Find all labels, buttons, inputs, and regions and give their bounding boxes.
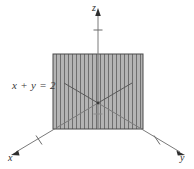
z-axis-label: z — [92, 2, 96, 13]
plane-equation-label: x + y = 2 — [12, 79, 56, 91]
math-figure-plane-x-plus-y-equals-2: x + y = 2 x y z — [0, 0, 194, 169]
x-axis-label: x — [8, 152, 12, 163]
origin-point — [97, 102, 100, 105]
y-axis-label: y — [180, 152, 184, 163]
z-axis-arrowhead — [95, 8, 101, 16]
